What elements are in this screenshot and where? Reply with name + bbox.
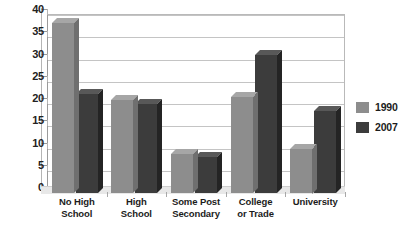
bar-1990-high-school[interactable]: [111, 100, 133, 193]
bar-1990-no-high-school[interactable]: [52, 23, 74, 193]
bar-side-face: [336, 106, 341, 193]
legend-swatch-1990: [356, 102, 369, 113]
bar-front-face: [111, 100, 133, 193]
bar-2007-high-school[interactable]: [135, 104, 157, 193]
bar-1990-university[interactable]: [290, 149, 312, 194]
bar-side-face: [157, 99, 162, 193]
bar-side-face: [253, 92, 258, 193]
bar-front-face: [231, 97, 253, 193]
bar-2007-some-post-secondary[interactable]: [195, 157, 217, 193]
bar-front-face: [76, 94, 98, 193]
bar-front-face: [171, 154, 193, 193]
bar-side-face: [193, 149, 198, 193]
bar-chart: 0510152025303540 No HighSchoolHighSchool…: [0, 0, 418, 235]
legend-swatch-2007: [356, 122, 369, 133]
bar-2007-university[interactable]: [314, 111, 336, 193]
bar-front-face: [52, 23, 74, 193]
x-axis-label-university: University: [272, 196, 358, 208]
legend-item-2007[interactable]: 2007: [356, 119, 414, 136]
bar-front-face: [135, 104, 157, 193]
bar-side-face: [133, 95, 138, 193]
legend: 1990 2007: [356, 99, 414, 139]
bar-side-face: [74, 18, 79, 193]
bar-front-face: [314, 111, 336, 193]
bar-side-face: [217, 152, 222, 193]
bar-2007-no-high-school[interactable]: [76, 94, 98, 193]
bar-side-face: [277, 50, 282, 193]
bar-1990-college-or-trade[interactable]: [231, 97, 253, 193]
legend-label-2007: 2007: [375, 122, 398, 133]
bar-front-face: [195, 157, 217, 193]
bar-1990-some-post-secondary[interactable]: [171, 154, 193, 193]
x-axis-label-line: University: [272, 196, 358, 208]
legend-label-1990: 1990: [375, 102, 398, 113]
bar-front-face: [290, 149, 312, 194]
bar-side-face: [98, 89, 103, 193]
legend-item-1990[interactable]: 1990: [356, 99, 414, 116]
bar-side-face: [312, 144, 317, 194]
x-axis-label-line: or Trade: [213, 208, 299, 220]
